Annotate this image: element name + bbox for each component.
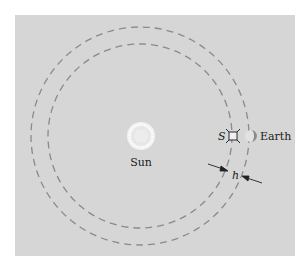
sun-label: Sun bbox=[130, 156, 152, 169]
sun-icon bbox=[127, 122, 155, 150]
earth-label: Earth bbox=[260, 130, 291, 143]
orbit-diagram: Sun S Earth h bbox=[0, 0, 308, 266]
satellite-icon bbox=[226, 129, 240, 143]
earth-icon bbox=[245, 130, 257, 142]
satellite-label: S bbox=[218, 130, 226, 143]
separation-label: h bbox=[232, 169, 239, 182]
